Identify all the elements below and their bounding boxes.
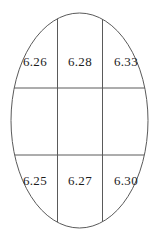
oval-grid-diagram: 6.26 6.28 6.33 6.25 6.27 6.30 — [0, 0, 156, 241]
cell-values: 6.26 6.28 6.33 6.25 6.27 6.30 — [23, 54, 138, 189]
diagram-canvas: 6.26 6.28 6.33 6.25 6.27 6.30 — [0, 0, 156, 241]
cell-value-top-right: 6.33 — [114, 54, 138, 69]
cell-value-bottom-left: 6.25 — [23, 173, 47, 188]
cell-value-bottom-right: 6.30 — [114, 173, 138, 188]
cell-value-top-left: 6.26 — [23, 54, 47, 69]
grid-lines — [0, 0, 156, 241]
cell-value-bottom-center: 6.27 — [68, 173, 92, 188]
cell-value-top-center: 6.28 — [68, 54, 92, 69]
oval-outline — [11, 13, 148, 228]
